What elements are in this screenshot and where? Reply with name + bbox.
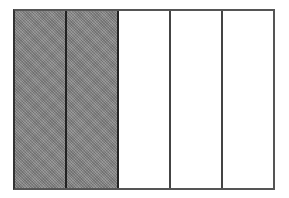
unshaded-part xyxy=(119,11,171,188)
shaded-part xyxy=(15,11,67,188)
unshaded-part xyxy=(171,11,223,188)
unshaded-part xyxy=(223,11,273,188)
fraction-bar xyxy=(13,9,275,190)
shaded-part xyxy=(67,11,119,188)
